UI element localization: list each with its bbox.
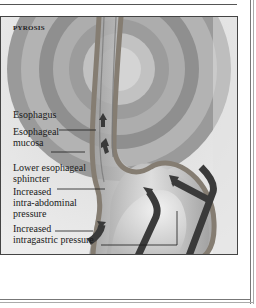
label-intragastric-pressure: Increased intragastric pressure [13,223,94,245]
pyrosis-illustration: PYROSIS Esophagus Esophageal mucosa Lowe… [0,16,238,255]
label-text: mucosa [13,137,59,148]
label-text: pressure [13,208,77,219]
label-lower-esophageal-sphincter: Lower esophageal sphincter [13,162,86,184]
label-text: Esophageal [13,126,59,137]
top-rule [0,4,237,5]
bottom-rule [0,299,251,300]
label-text: sphincter [13,173,86,184]
label-intra-abdominal-pressure: Increased intra-abdominal pressure [13,186,77,219]
right-rule [250,0,251,304]
label-text: Lower esophageal [13,162,86,173]
label-text: Increased [13,223,94,234]
label-esophageal-mucosa: Esophageal mucosa [13,126,59,148]
label-text: intragastric pressure [13,234,94,245]
label-text: Esophagus [13,109,56,120]
label-text: intra-abdominal [13,197,77,208]
right-rule-outer [253,0,254,304]
bottom-rule-outer [0,302,254,303]
label-text: Increased [13,186,77,197]
figure-title: PYROSIS [13,24,45,32]
label-esophagus: Esophagus [13,109,56,120]
